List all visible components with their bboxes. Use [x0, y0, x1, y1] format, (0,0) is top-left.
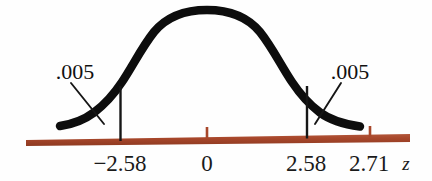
- axis-label-negative-2-58: −2.58: [93, 151, 146, 176]
- bell-curve-group: [60, 10, 360, 127]
- left-tail-area-label: .005: [56, 59, 95, 84]
- axis-label-zero: 0: [201, 151, 213, 176]
- critical-value-lines: [121, 86, 308, 141]
- axis-bar: [26, 134, 410, 146]
- normal-curve: [60, 10, 360, 127]
- figure-canvas: .005 .005 −2.58 0 2.58 2.71 z: [0, 0, 432, 181]
- axis-variable-label: z: [401, 153, 410, 174]
- axis-label-test-statistic: 2.71: [349, 151, 389, 176]
- normal-distribution-figure: .005 .005 −2.58 0 2.58 2.71 z: [0, 0, 432, 181]
- right-tail-area-label: .005: [331, 59, 370, 84]
- axis-label-positive-2-58: 2.58: [286, 151, 326, 176]
